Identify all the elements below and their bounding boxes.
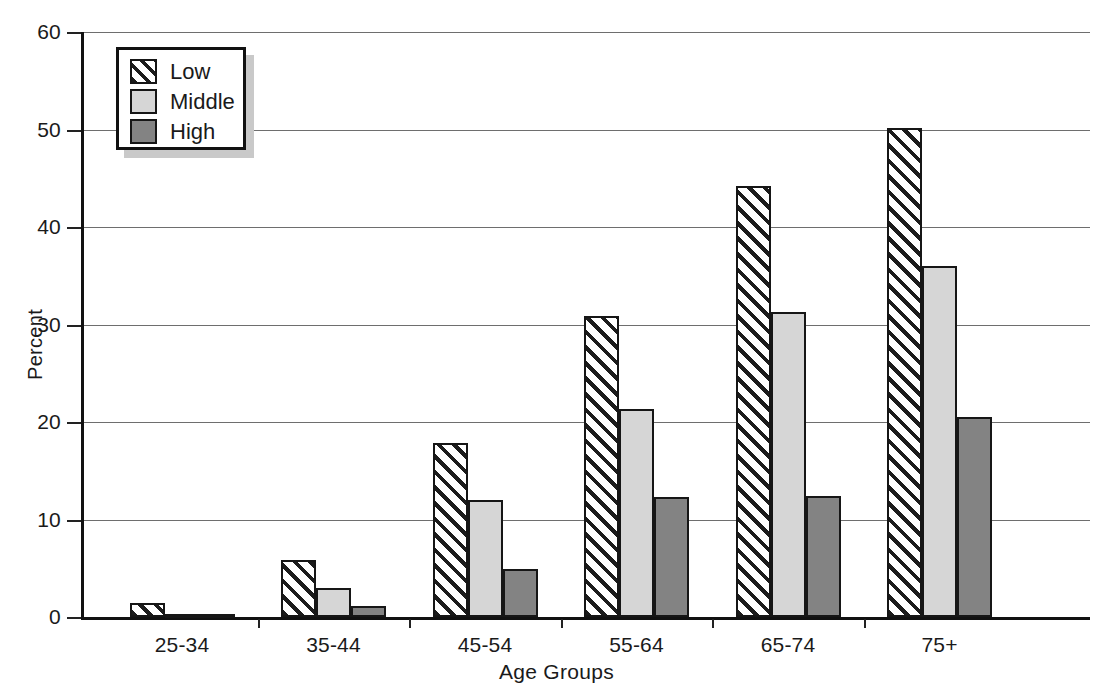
y-axis-tick-label: 0 (15, 606, 61, 627)
legend-label: High (170, 121, 215, 143)
y-axis-tick-mark (67, 520, 81, 522)
y-axis-tick-mark (67, 422, 81, 424)
x-axis-tick-mark (561, 619, 563, 628)
x-axis-tick-mark (409, 619, 411, 628)
y-axis-tick-mark (67, 32, 81, 34)
bar-high-45-54 (503, 569, 538, 617)
bar-middle-65-74 (771, 312, 806, 617)
bar-low-75+ (887, 128, 922, 617)
legend-item-low: Low (130, 59, 210, 84)
x-axis-tick-mark (712, 619, 714, 628)
x-axis-tick-label: 35-44 (264, 634, 404, 656)
bar-middle-25-34 (165, 614, 200, 618)
y-axis-line (81, 32, 84, 619)
bar-low-35-44 (281, 560, 316, 617)
legend-item-high: High (130, 119, 215, 144)
y-axis-tick-mark (67, 227, 81, 229)
x-axis-tick-label: 45-54 (415, 634, 555, 656)
bar-high-25-34 (200, 614, 235, 618)
bar-middle-45-54 (468, 500, 503, 617)
legend-label: Middle (170, 91, 235, 113)
light-gray-swatch (130, 89, 157, 114)
bar-low-55-64 (584, 316, 619, 617)
dark-gray-swatch (130, 119, 157, 144)
bar-high-75+ (957, 417, 992, 617)
hatched-swatch (130, 59, 157, 84)
bar-chart: 0102030405060 25-3435-4445-5455-6465-747… (0, 0, 1113, 691)
x-axis-tick-label: 75+ (870, 634, 1010, 656)
x-axis-tick-label: 55-64 (567, 634, 707, 656)
y-axis-tick-mark (67, 325, 81, 327)
y-axis-tick-label: 60 (15, 21, 61, 42)
gridline (81, 227, 1090, 228)
x-axis-tick-mark (864, 619, 866, 628)
bar-low-65-74 (736, 186, 771, 617)
bar-low-45-54 (433, 443, 468, 617)
gridline (81, 32, 1090, 33)
bar-low-25-34 (130, 603, 165, 617)
y-axis-tick-label: 10 (15, 509, 61, 530)
x-axis-tick-label: 65-74 (718, 634, 858, 656)
bar-high-35-44 (351, 606, 386, 617)
y-axis-tick-mark (67, 130, 81, 132)
bar-middle-75+ (922, 266, 957, 617)
bar-high-65-74 (806, 496, 841, 617)
x-axis-tick-label: 25-34 (112, 634, 252, 656)
y-axis-tick-label: 40 (15, 216, 61, 237)
chart-legend: LowMiddleHigh (116, 47, 246, 150)
x-axis-tick-mark (258, 619, 260, 628)
x-axis-title: Age Groups (0, 660, 1113, 684)
bar-high-55-64 (654, 497, 689, 617)
bar-middle-35-44 (316, 588, 351, 617)
y-axis-title: Percent (24, 309, 47, 380)
legend-item-middle: Middle (130, 89, 235, 114)
legend-label: Low (170, 61, 210, 83)
y-axis-tick-label: 20 (15, 411, 61, 432)
y-axis-tick-mark (67, 617, 81, 619)
bar-middle-55-64 (619, 409, 654, 617)
y-axis-tick-label: 50 (15, 119, 61, 140)
